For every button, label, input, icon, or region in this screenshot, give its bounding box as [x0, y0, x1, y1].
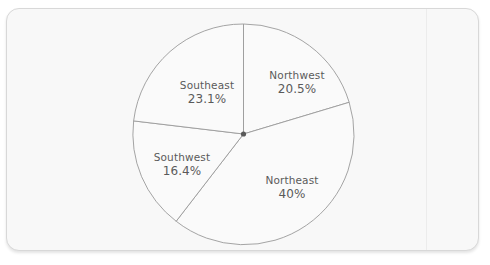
chart-panel: Northwest 20.5% Southeast 23.1% Southwes… [6, 8, 479, 251]
pie-label-southwest-category: Southwest [135, 151, 229, 163]
pie-label-northwest: Northwest 20.5% [252, 69, 342, 97]
pie-label-southwest: Southwest 16.4% [135, 151, 229, 179]
pie-label-southeast: Southeast 23.1% [162, 79, 252, 107]
pie-label-southeast-value: 23.1% [162, 92, 252, 106]
pie-label-northwest-category: Northwest [252, 69, 342, 81]
pie-chart-svg [7, 9, 479, 251]
screenshot-root: Northwest 20.5% Southeast 23.1% Southwes… [0, 0, 490, 265]
pie-label-northwest-value: 20.5% [252, 82, 342, 96]
pie-label-southeast-category: Southeast [162, 79, 252, 91]
pie-chart: Northwest 20.5% Southeast 23.1% Southwes… [7, 9, 479, 251]
pie-label-northeast-value: 40% [247, 187, 337, 201]
pie-center-marker [241, 131, 246, 136]
pie-label-northeast-category: Northeast [247, 174, 337, 186]
pie-label-southwest-value: 16.4% [135, 164, 229, 178]
pie-label-northeast: Northeast 40% [247, 174, 337, 202]
